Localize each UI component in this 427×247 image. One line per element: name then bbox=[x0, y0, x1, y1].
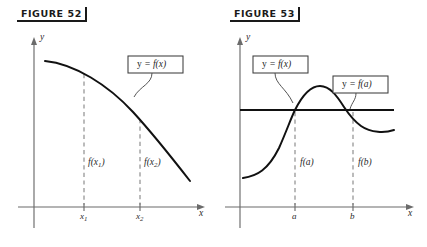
figure-52-y-axis-arrow bbox=[31, 37, 37, 45]
figure-53-plot bbox=[213, 0, 426, 247]
figure-53-callout-label-fa: y = f(a) bbox=[342, 80, 372, 90]
figure-53-y-axis-arrow bbox=[237, 37, 243, 45]
figure-52-tick-label-x1: x1 bbox=[80, 212, 87, 223]
figure-52-callout-leader bbox=[134, 73, 152, 97]
figure-53-value-label-fb: f(b) bbox=[358, 158, 372, 168]
figure-53-tick-label-b: b bbox=[350, 212, 355, 221]
figure-53-callout-fx-leader bbox=[275, 73, 293, 103]
figure-52-y-axis-label: y bbox=[40, 33, 44, 43]
figure-53-y-axis-label: y bbox=[246, 33, 250, 43]
figure-52-value-label-fx2: f(x2) bbox=[144, 158, 161, 169]
figure-52-curve bbox=[45, 61, 190, 181]
figure-53-callout-label-fx: y = f(x) bbox=[262, 60, 291, 70]
figure-53-value-label-fa: f(a) bbox=[300, 158, 314, 168]
figure-sheet: FIGURE 52 y x y = f(x) bbox=[0, 0, 427, 247]
figure-53-tick-label-a: a bbox=[292, 212, 297, 221]
figure-53-x-axis-label: x bbox=[408, 209, 412, 219]
figure-53-panel: FIGURE 53 bbox=[213, 0, 426, 247]
figure-53-callout-fa-leader bbox=[350, 93, 356, 109]
figure-52-tick-label-x2: x2 bbox=[136, 212, 143, 223]
figure-52-x-axis-label: x bbox=[199, 209, 203, 219]
figure-52-value-label-fx1: f(x1) bbox=[88, 158, 105, 169]
figure-52-plot bbox=[0, 0, 213, 247]
figure-52-panel: FIGURE 52 y x y = f(x) bbox=[0, 0, 213, 247]
figure-52-callout-label: y = f(x) bbox=[137, 60, 166, 70]
